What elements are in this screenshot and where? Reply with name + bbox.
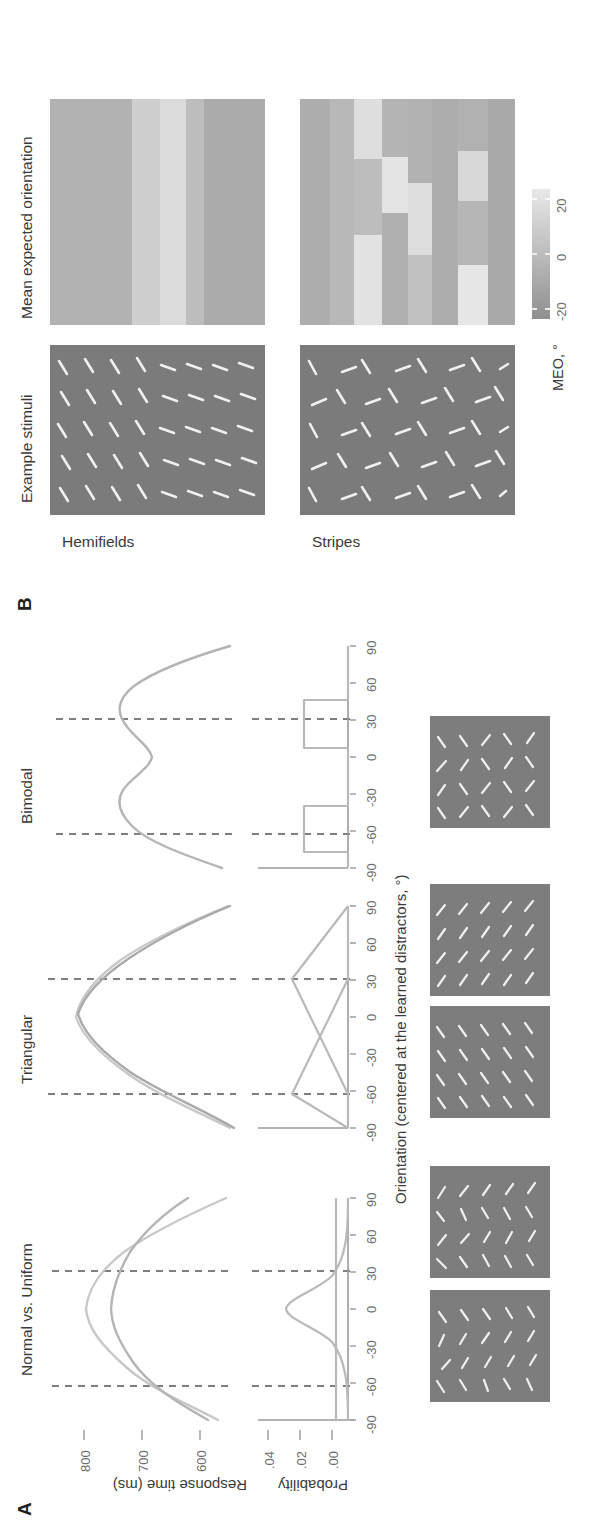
prob-tick-02: .02 bbox=[294, 1451, 309, 1469]
rt-plot-bimodal bbox=[54, 642, 238, 872]
x-tick-c1-m60: -60 bbox=[364, 1377, 379, 1396]
x-tick-c2-30: 30 bbox=[364, 975, 379, 989]
prob-tick-04: .04 bbox=[262, 1451, 277, 1469]
x-tick-c1-60: 60 bbox=[364, 1230, 379, 1244]
x-tick-c1-90: 90 bbox=[364, 1193, 379, 1207]
x-tick-c3-30: 30 bbox=[364, 715, 379, 729]
panel-b-column-title-0: Example stimuli bbox=[18, 394, 36, 503]
panel-b-letter: B bbox=[14, 597, 36, 611]
panel-b: B Example stimuli Mean expected orientat… bbox=[0, 0, 592, 619]
prob-plot-bimodal bbox=[252, 642, 356, 872]
panel-a: A Normal vs. Uniform Triangular Bimodal … bbox=[0, 619, 592, 1524]
stimulus-thumbnail-5 bbox=[430, 716, 550, 828]
rt-plot-triangular bbox=[44, 902, 240, 1132]
stimulus-hemifields bbox=[50, 345, 265, 515]
figure-canvas: A Normal vs. Uniform Triangular Bimodal … bbox=[0, 0, 592, 1524]
panel-a-column-title-0: Normal vs. Uniform bbox=[18, 1243, 36, 1376]
x-ticks-col-1 bbox=[350, 1194, 362, 1424]
prob-plot-triangular bbox=[252, 902, 356, 1132]
rt-axis-ticks bbox=[74, 1428, 214, 1440]
panel-b-row-title-hemifields: Hemifields bbox=[62, 533, 134, 551]
x-tick-c2-m90: -90 bbox=[364, 1123, 379, 1142]
stimulus-thumbnail-4 bbox=[430, 884, 550, 996]
x-tick-c3-m90: -90 bbox=[364, 863, 379, 882]
meo-colorbar-tick-minus20: -20 bbox=[554, 302, 569, 321]
x-ticks-col-3 bbox=[350, 642, 362, 872]
x-tick-c2-m30: -30 bbox=[364, 1048, 379, 1067]
meo-colorbar bbox=[532, 189, 552, 319]
x-tick-c2-90: 90 bbox=[364, 901, 379, 915]
x-ticks-col-2 bbox=[350, 902, 362, 1132]
panel-b-row-title-stripes: Stripes bbox=[312, 533, 360, 551]
prob-axis-ticks bbox=[258, 1428, 348, 1440]
x-tick-c2-m60: -60 bbox=[364, 1085, 379, 1104]
panel-a-column-title-2: Bimodal bbox=[18, 768, 36, 824]
x-tick-c2-0: 0 bbox=[364, 1014, 379, 1021]
x-tick-c3-60: 60 bbox=[364, 678, 379, 692]
x-tick-c3-0: 0 bbox=[364, 754, 379, 761]
rt-tick-700: 700 bbox=[136, 1450, 151, 1472]
x-tick-c1-30: 30 bbox=[364, 1267, 379, 1281]
x-tick-c2-60: 60 bbox=[364, 938, 379, 952]
x-tick-c1-m30: -30 bbox=[364, 1340, 379, 1359]
prob-axis-title: Probability bbox=[278, 1477, 348, 1494]
panel-a-column-title-1: Triangular bbox=[18, 1015, 36, 1084]
x-tick-c3-90: 90 bbox=[364, 641, 379, 655]
x-tick-c3-m30: -30 bbox=[364, 788, 379, 807]
stimulus-thumbnail-2 bbox=[430, 1166, 550, 1278]
meo-colorbar-title: MEO, ° bbox=[550, 344, 566, 391]
x-axis-title: Orientation (centered at the learned dis… bbox=[392, 875, 409, 1205]
panel-a-letter: A bbox=[14, 1502, 36, 1516]
meo-heatmap-hemifields bbox=[50, 99, 265, 325]
prob-tick-00: .00 bbox=[326, 1451, 341, 1469]
rt-plot-normal-uniform bbox=[48, 1194, 238, 1424]
rt-tick-600: 600 bbox=[194, 1450, 209, 1472]
meo-colorbar-tick-0: 0 bbox=[554, 254, 569, 261]
stimulus-thumbnail-1 bbox=[430, 1290, 550, 1402]
meo-colorbar-tick-20: 20 bbox=[554, 199, 569, 213]
stimulus-thumbnail-3 bbox=[430, 1006, 550, 1118]
rt-tick-800: 800 bbox=[78, 1450, 93, 1472]
x-tick-c1-m90: -90 bbox=[364, 1415, 379, 1434]
panel-b-column-title-1: Mean expected orientation bbox=[18, 136, 36, 319]
x-tick-c1-0: 0 bbox=[364, 1306, 379, 1313]
rt-axis-title: Response time (ms) bbox=[113, 1477, 247, 1494]
prob-plot-normal-uniform bbox=[252, 1194, 356, 1424]
meo-heatmap-stripes bbox=[300, 99, 515, 325]
stimulus-stripes bbox=[300, 345, 515, 515]
x-tick-c3-m60: -60 bbox=[364, 825, 379, 844]
